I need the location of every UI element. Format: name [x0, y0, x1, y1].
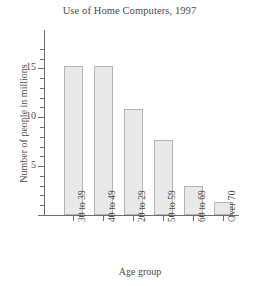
y-tick-major: 5 [44, 166, 45, 167]
y-tick-label: 10 [26, 110, 36, 121]
x-tick-label: Over 70 [227, 190, 237, 222]
y-tick-mark [40, 59, 44, 60]
y-tick-label: 15 [26, 61, 36, 72]
x-tick-mark [73, 216, 74, 221]
y-tick-mark [38, 117, 44, 118]
x-tick-mark [103, 216, 104, 221]
y-tick-mark [40, 107, 44, 108]
y-tick-minor [44, 195, 45, 196]
y-tick-mark [40, 186, 44, 187]
x-tick-mark [133, 216, 134, 221]
y-tick-mark [40, 49, 44, 50]
y-tick-mark [40, 195, 44, 196]
y-tick-minor [44, 176, 45, 177]
y-tick-major: 10 [44, 117, 45, 118]
y-tick-minor [44, 137, 45, 138]
y-tick-mark [38, 68, 44, 69]
x-tick-mark [163, 216, 164, 221]
y-tick-minor [44, 186, 45, 187]
y-tick-label: 5 [31, 159, 36, 170]
x-tick-label: 20 to 29 [137, 190, 147, 222]
bar-chart-figure: Use of Home Computers, 1997 Number of pe… [0, 0, 259, 286]
y-tick-minor [44, 205, 45, 206]
y-tick-minor [44, 107, 45, 108]
x-axis-title: Age group [40, 266, 240, 277]
y-tick-minor [44, 59, 45, 60]
x-tick-label: 30 to 39 [77, 190, 87, 222]
y-tick-mark [38, 166, 44, 167]
chart-title: Use of Home Computers, 1997 [0, 5, 259, 16]
y-tick-mark [40, 176, 44, 177]
y-tick-minor [44, 147, 45, 148]
y-tick-mark [40, 205, 44, 206]
x-tick-label: 40 to 49 [107, 190, 117, 222]
y-tick-mark [40, 147, 44, 148]
y-tick-minor [44, 127, 45, 128]
y-tick-minor [44, 156, 45, 157]
y-tick-mark [40, 88, 44, 89]
plot-area: 51015 30 to 3940 to 4920 to 2950 to 5960… [44, 30, 239, 216]
y-tick-major: 15 [44, 68, 45, 69]
y-tick-mark [40, 78, 44, 79]
y-tick-mark [40, 156, 44, 157]
x-tick-label: 50 to 59 [167, 190, 177, 222]
y-tick-mark [40, 98, 44, 99]
y-tick-minor [44, 78, 45, 79]
x-tick-mark [223, 216, 224, 221]
y-tick-minor [44, 88, 45, 89]
y-tick-minor [44, 98, 45, 99]
y-tick-mark [40, 127, 44, 128]
x-tick-label: 60 to 69 [197, 190, 207, 222]
x-tick-mark [193, 216, 194, 221]
y-tick-mark [40, 137, 44, 138]
y-tick-minor [44, 49, 45, 50]
